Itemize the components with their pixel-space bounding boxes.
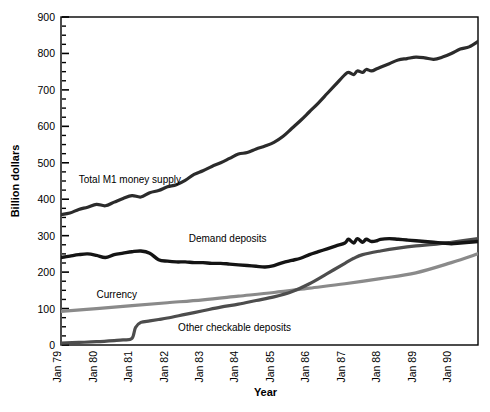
x-tick-label: Jan 79	[51, 351, 63, 383]
x-axis-title: Year	[254, 386, 278, 398]
y-tick-label: 100	[37, 303, 55, 315]
series-line-demand-deposits	[61, 239, 478, 267]
series-line-total-m1-money-supply	[61, 41, 478, 214]
x-tick-label: Jan 82	[158, 351, 170, 383]
series-line-currency	[61, 254, 478, 312]
x-tick-label: Jan 87	[335, 351, 347, 383]
chart-canvas: 0100200300400500600700800900Jan 79Jan 80…	[0, 0, 490, 412]
y-tick-label: 200	[37, 266, 55, 278]
money-supply-chart: 0100200300400500600700800900Jan 79Jan 80…	[0, 0, 490, 412]
x-tick-label: Jan 80	[87, 351, 99, 383]
x-tick-label: Jan 88	[370, 351, 382, 383]
series-label-total-m1-money-supply: Total M1 money supply	[79, 174, 181, 185]
x-tick-label: Jan 86	[299, 351, 311, 383]
y-tick-label: 500	[37, 157, 55, 169]
x-tick-label: Jan 85	[264, 351, 276, 383]
x-tick-label: Jan 90	[441, 351, 453, 383]
series-label-other-checkable-deposits: Other checkable deposits	[178, 322, 291, 333]
y-tick-label: 400	[37, 193, 55, 205]
y-tick-label: 800	[37, 47, 55, 59]
x-tick-label: Jan 83	[193, 351, 205, 383]
y-tick-label: 300	[37, 230, 55, 242]
x-tick-label: Jan 84	[228, 351, 240, 383]
y-tick-label: 600	[37, 120, 55, 132]
series-label-currency: Currency	[96, 289, 137, 300]
x-tick-label: Jan 89	[406, 351, 418, 383]
series-label-demand-deposits: Demand deposits	[189, 233, 267, 244]
y-tick-label: 700	[37, 84, 55, 96]
x-tick-label: Jan 81	[122, 351, 134, 383]
y-tick-label: 900	[37, 11, 55, 23]
y-axis-title: Billion dollars	[9, 145, 21, 218]
y-tick-label: 0	[49, 339, 55, 351]
